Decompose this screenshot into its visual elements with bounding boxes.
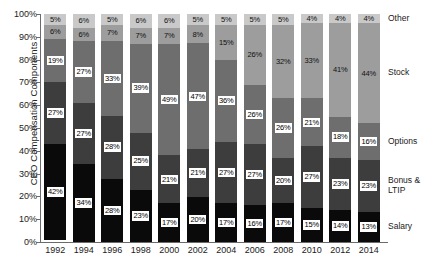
bar-segment-2000-bonus-ltip[interactable]: 21% xyxy=(158,155,180,203)
legend-item-other[interactable]: Other xyxy=(388,14,409,24)
bar-segment-2008-stock[interactable]: 32% xyxy=(272,25,294,98)
legend-item-stock[interactable]: Stock xyxy=(388,69,409,79)
bar-segment-2012-stock[interactable]: 41% xyxy=(329,23,351,116)
bar-segment-2004-stock[interactable]: 15% xyxy=(215,25,237,59)
bar-segment-1992-bonus-ltip[interactable]: 27% xyxy=(44,82,66,144)
bar-segment-1994-bonus-ltip[interactable]: 27% xyxy=(73,103,95,165)
bar-segment-1994-salary[interactable]: 34% xyxy=(73,164,95,242)
bar-segment-2002-options[interactable]: 47% xyxy=(187,43,209,149)
bar-column-1996[interactable]: 5%7%33%28%28% xyxy=(98,14,127,242)
bar-column-2006[interactable]: 5%26%26%27%16% xyxy=(241,14,270,242)
bar-value-label: 6% xyxy=(49,27,62,37)
bar-segment-2010-salary[interactable]: 15% xyxy=(301,208,323,242)
bar-value-label: 33% xyxy=(303,56,320,66)
bar-value-label: 44% xyxy=(360,69,377,79)
bar-segment-2002-salary[interactable]: 20% xyxy=(187,197,209,242)
bar-segment-2010-stock[interactable]: 33% xyxy=(301,23,323,98)
bar-segment-2012-other[interactable]: 4% xyxy=(329,14,351,23)
bar-segment-2004-salary[interactable]: 17% xyxy=(215,203,237,242)
bar-column-2014[interactable]: 4%44%16%23%13% xyxy=(355,14,384,242)
bar-column-1998[interactable]: 6%7%39%25%23% xyxy=(127,14,156,242)
x-tick-label-1998: 1998 xyxy=(127,245,156,255)
bar-segment-1998-options[interactable]: 39% xyxy=(130,44,152,133)
bar-stack-2008: 5%32%26%20%17% xyxy=(272,14,294,242)
bar-column-2002[interactable]: 5%8%47%21%20% xyxy=(184,14,213,242)
bar-value-label: 8% xyxy=(191,30,204,40)
bar-column-2000[interactable]: 6%7%49%21%17% xyxy=(155,14,184,242)
bar-segment-2008-bonus-ltip[interactable]: 20% xyxy=(272,158,294,204)
bar-segment-2006-salary[interactable]: 16% xyxy=(244,205,266,241)
bar-value-label: 28% xyxy=(104,206,121,216)
bar-value-label: 17% xyxy=(161,218,178,228)
bar-segment-1998-salary[interactable]: 23% xyxy=(130,190,152,242)
bar-value-label: 5% xyxy=(277,15,290,25)
bar-column-2004[interactable]: 5%15%36%27%17% xyxy=(212,14,241,242)
bar-segment-2014-salary[interactable]: 13% xyxy=(358,212,380,242)
legend-item-bonus-ltip[interactable]: Bonus & LTIP xyxy=(388,177,420,196)
bar-segment-1994-stock[interactable]: 6% xyxy=(73,28,95,42)
bar-value-label: 6% xyxy=(134,16,147,26)
bar-segment-1996-stock[interactable]: 7% xyxy=(101,25,123,41)
bar-segment-2006-bonus-ltip[interactable]: 27% xyxy=(244,144,266,206)
bar-segment-2010-options[interactable]: 21% xyxy=(301,98,323,146)
legend-item-salary[interactable]: Salary xyxy=(388,222,412,232)
bar-segment-2006-stock[interactable]: 26% xyxy=(244,25,266,84)
bar-value-label: 16% xyxy=(360,137,377,147)
bar-segment-1996-options[interactable]: 33% xyxy=(101,41,123,116)
bar-segment-1998-stock[interactable]: 7% xyxy=(130,28,152,44)
bar-segment-2010-other[interactable]: 4% xyxy=(301,14,323,23)
bar-segment-2012-options[interactable]: 18% xyxy=(329,117,351,158)
bar-column-2012[interactable]: 4%41%18%23%14% xyxy=(326,14,355,242)
bar-segment-2002-other[interactable]: 5% xyxy=(187,14,209,25)
bar-segment-2002-bonus-ltip[interactable]: 21% xyxy=(187,149,209,196)
y-tick-label-40: 40% xyxy=(19,146,37,156)
bar-segment-1992-other[interactable]: 5% xyxy=(44,14,66,25)
bar-segment-1994-options[interactable]: 27% xyxy=(73,41,95,103)
bar-segment-1998-other[interactable]: 6% xyxy=(130,14,152,28)
bar-stack-2000: 6%7%49%21%17% xyxy=(158,14,180,242)
y-tick-mark-80 xyxy=(36,60,40,61)
bar-segment-2002-stock[interactable]: 8% xyxy=(187,25,209,43)
bar-segment-2004-other[interactable]: 5% xyxy=(215,14,237,25)
bar-segment-2006-other[interactable]: 5% xyxy=(244,14,266,25)
bar-segment-2006-options[interactable]: 26% xyxy=(244,85,266,144)
bar-segment-1992-options[interactable]: 19% xyxy=(44,39,66,82)
bar-segment-1996-bonus-ltip[interactable]: 28% xyxy=(101,116,123,179)
bar-segment-2008-other[interactable]: 5% xyxy=(272,14,294,25)
legend-item-options[interactable]: Options xyxy=(388,137,417,147)
bar-value-label: 5% xyxy=(106,15,119,25)
bar-value-label: 16% xyxy=(246,219,263,229)
bar-segment-2000-other[interactable]: 6% xyxy=(158,14,180,28)
bar-column-1994[interactable]: 6%6%27%27%34% xyxy=(70,14,99,242)
y-tick-label-50: 50% xyxy=(19,123,37,133)
bar-column-2008[interactable]: 5%32%26%20%17% xyxy=(269,14,298,242)
bar-segment-2014-options[interactable]: 16% xyxy=(358,123,380,159)
bar-segment-2000-options[interactable]: 49% xyxy=(158,44,180,156)
bar-segment-2014-stock[interactable]: 44% xyxy=(358,23,380,123)
y-tick-mark-0 xyxy=(36,242,40,243)
x-tick-label-2002: 2002 xyxy=(184,245,213,255)
bar-segment-2004-options[interactable]: 36% xyxy=(215,60,237,142)
bar-segment-1996-salary[interactable]: 28% xyxy=(101,179,123,242)
y-tick-label-80: 80% xyxy=(19,55,37,65)
bar-segment-2004-bonus-ltip[interactable]: 27% xyxy=(215,142,237,204)
x-tick-label-1992: 1992 xyxy=(41,245,70,255)
bar-segment-1992-stock[interactable]: 6% xyxy=(44,25,66,39)
bar-segment-1996-other[interactable]: 5% xyxy=(101,14,123,25)
bar-segment-2000-salary[interactable]: 17% xyxy=(158,203,180,242)
bar-value-label: 49% xyxy=(161,95,178,105)
bar-segment-2010-bonus-ltip[interactable]: 27% xyxy=(301,146,323,208)
bar-column-2010[interactable]: 4%33%21%27%15% xyxy=(298,14,327,242)
bar-segment-2008-options[interactable]: 26% xyxy=(272,98,294,157)
bar-segment-1992-salary[interactable]: 42% xyxy=(44,144,66,240)
bar-segment-2008-salary[interactable]: 17% xyxy=(272,203,294,242)
bar-segment-2012-bonus-ltip[interactable]: 23% xyxy=(329,158,351,210)
bar-column-1992[interactable]: 5%6%19%27%42% xyxy=(41,14,70,242)
bar-segment-1994-other[interactable]: 6% xyxy=(73,14,95,28)
bar-segment-2014-other[interactable]: 4% xyxy=(358,14,380,23)
bar-segment-1998-bonus-ltip[interactable]: 25% xyxy=(130,133,152,190)
bar-segment-2012-salary[interactable]: 14% xyxy=(329,210,351,242)
bar-segment-2014-bonus-ltip[interactable]: 23% xyxy=(358,160,380,212)
bar-segment-2000-stock[interactable]: 7% xyxy=(158,28,180,44)
bar-stack-1996: 5%7%33%28%28% xyxy=(101,14,123,242)
